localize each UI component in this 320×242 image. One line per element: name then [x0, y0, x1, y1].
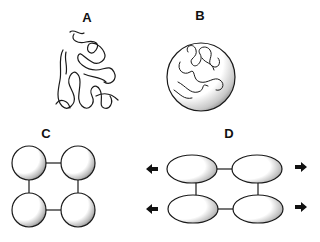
panel-d: D	[146, 126, 307, 223]
sphere-icon	[12, 146, 46, 180]
ellipsoid-icon	[168, 195, 218, 223]
panel-a: A	[56, 10, 118, 108]
arrow-left-icon	[146, 164, 158, 174]
arrow-right-icon	[295, 202, 307, 212]
panel-c: C	[12, 126, 95, 227]
diagram-canvas: A B C	[0, 0, 320, 242]
sphere-icon	[12, 193, 46, 227]
arrow-left-icon	[146, 204, 158, 214]
random-coil-icon	[56, 31, 118, 108]
ellipsoid-icon	[233, 195, 283, 223]
sphere-icon	[61, 146, 95, 180]
panel-label-b: B	[195, 8, 204, 23]
arrow-right-icon	[295, 162, 307, 172]
sphere-icon	[61, 193, 95, 227]
enclosing-sphere-icon	[167, 43, 235, 111]
ellipsoid-icon	[167, 155, 217, 183]
panel-label-a: A	[82, 10, 92, 25]
panel-b: B	[167, 8, 235, 111]
panel-label-c: C	[41, 126, 51, 141]
ellipsoid-icon	[232, 155, 282, 183]
panel-label-d: D	[224, 126, 233, 141]
